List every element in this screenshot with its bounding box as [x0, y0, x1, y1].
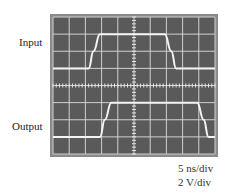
time-scale: 5 ns/div	[178, 162, 213, 174]
output-label: Output	[12, 120, 43, 132]
voltage-scale: 2 V/div	[178, 176, 211, 188]
input-label: Input	[19, 36, 42, 48]
oscilloscope-screen	[50, 14, 218, 157]
